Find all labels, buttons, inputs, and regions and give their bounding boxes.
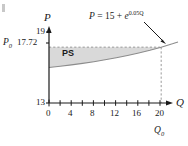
y-tick-label-13: 13 (36, 98, 45, 107)
supply-curve-equation: P = 15 + e0.05Q (89, 10, 144, 22)
x-tick-label-16: 16 (132, 109, 141, 118)
equation-leader-arrowhead (161, 40, 167, 45)
x-tick-label-4: 4 (68, 109, 73, 118)
x-tick-label-8: 8 (90, 109, 95, 118)
equilibrium-quantity-symbol: Q0 (154, 126, 164, 137)
q0-letter: Q (154, 125, 161, 135)
x-axis-arrowhead (166, 100, 173, 105)
ps-region-label: PS (62, 49, 74, 58)
equilibrium-price-symbol: P0 (3, 38, 12, 49)
eq-operator: = 15 + (95, 11, 125, 21)
equation-leader-line (144, 22, 163, 41)
x-tick-label-20: 20 (155, 109, 164, 118)
q0-subscript: 0 (161, 130, 164, 137)
y-tick-label-19: 19 (36, 27, 45, 36)
x-tick-label-0: 0 (46, 109, 51, 118)
x-axis-label: Q (176, 97, 184, 108)
eq-exponent: 0.05Q (129, 10, 144, 16)
y-tick-label-1772: 17.72 (17, 38, 37, 47)
y-axis-label: P (44, 12, 51, 23)
x-tick-label-12: 12 (110, 109, 119, 118)
p0-subscript: 0 (9, 42, 12, 49)
producer-surplus-figure: P 19 P0 17.72 13 0 4 8 12 16 20 Q Q0 PS … (0, 0, 188, 146)
